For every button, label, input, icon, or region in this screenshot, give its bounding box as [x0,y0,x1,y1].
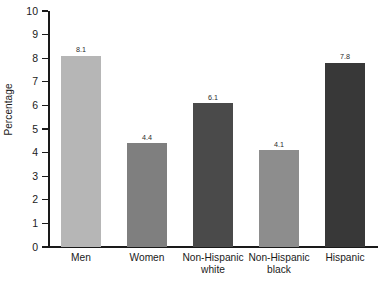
y-axis-line [48,11,50,247]
bar [61,56,101,247]
y-axis-tick-label: 2 [12,194,38,205]
x-axis-category-label: Men [48,252,114,264]
y-axis-tick [42,34,48,35]
y-axis-tick [42,10,48,11]
x-axis-category-label: Non-Hispanic white [180,252,246,275]
x-axis-category-label: Women [114,252,180,264]
y-axis-tick-label: 4 [12,147,38,158]
bar-value-label: 7.8 [325,53,365,60]
y-axis-tick [42,152,48,153]
y-axis-tick [42,246,48,247]
y-axis-tick-label: 5 [12,124,38,135]
x-axis-category-label: Non-Hispanic black [246,252,312,275]
bar [127,143,167,247]
y-axis-tick-label: 7 [12,76,38,87]
y-axis-tick [42,128,48,129]
y-axis-tick [42,58,48,59]
y-axis-tick [42,105,48,106]
bar-chart: Percentage 109876543210 8.14.46.14.17.8 … [0,0,384,288]
y-axis-tick [42,199,48,200]
y-axis-tick [42,176,48,177]
bar-value-label: 4.1 [259,141,299,148]
y-axis-tick-label: 3 [12,171,38,182]
bar [193,103,233,247]
y-axis-tick [42,223,48,224]
y-axis-tick-label: 10 [12,6,38,17]
y-axis-tick [42,81,48,82]
y-axis-tick-label: 9 [12,29,38,40]
y-axis-tick-label: 1 [12,218,38,229]
bar [259,150,299,247]
bar-value-label: 6.1 [193,94,233,101]
y-axis-tick-label: 0 [12,242,38,253]
bar [325,63,365,247]
y-axis-tick-label: 6 [12,100,38,111]
bar-value-label: 4.4 [127,134,167,141]
y-axis-tick-label: 8 [12,53,38,64]
bar-value-label: 8.1 [61,46,101,53]
x-axis-category-label: Hispanic [312,252,378,264]
